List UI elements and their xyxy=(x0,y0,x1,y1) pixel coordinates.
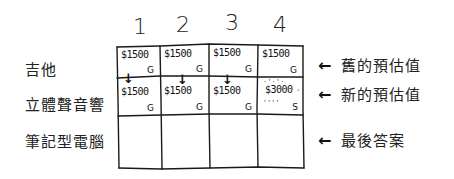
cell-item: G xyxy=(147,65,154,75)
cell-guitar-2: $1500 G ↓ xyxy=(161,46,209,76)
sparkle-icon: ' ' ' ' xyxy=(264,99,278,107)
arrow-down-icon: ↓ xyxy=(123,71,134,86)
cell-price: $1500 xyxy=(121,86,149,97)
arrow-down-icon: ↓ xyxy=(222,72,233,87)
cell-price: $1500 xyxy=(164,48,192,59)
arrow-down-icon: ↓ xyxy=(177,72,188,87)
cell-laptop-2 xyxy=(162,115,210,168)
cell-price: $1500 xyxy=(213,47,241,58)
cell-stereo-3: $1500 G xyxy=(210,76,258,114)
cell-price: $1500 xyxy=(262,48,290,59)
cell-item: S xyxy=(292,102,298,112)
arrow-left-icon: ← xyxy=(318,85,331,104)
cell-item: G xyxy=(245,102,252,112)
cell-item: G xyxy=(196,64,203,74)
arrow-left-icon: ← xyxy=(318,56,331,75)
cell-laptop-3 xyxy=(210,114,258,167)
cell-item: G xyxy=(147,103,154,113)
sparkle-icon: - xyxy=(297,86,300,94)
cell-item: G xyxy=(196,102,203,112)
cell-price: $3000 xyxy=(265,84,293,95)
cell-guitar-1: $1500 G ↓ xyxy=(118,47,160,77)
annotation-new-estimate: ← 新的預估值 xyxy=(318,83,421,104)
cell-item: G xyxy=(290,65,297,75)
cell-laptop-4 xyxy=(258,114,303,167)
annotation-final-answer: ← 最後答案 xyxy=(318,129,405,150)
annotation-label: 新的預估值 xyxy=(341,86,421,104)
cell-guitar-4: $1500 G xyxy=(259,46,303,77)
arrow-left-icon: ← xyxy=(318,131,331,150)
cell-guitar-3: $1500 G ↓ xyxy=(210,45,258,76)
annotation-label: 舊的預估值 xyxy=(341,57,421,75)
cell-laptop-1 xyxy=(119,116,161,168)
cell-item: G xyxy=(245,64,252,74)
annotation-label: 最後答案 xyxy=(341,132,405,150)
annotation-old-estimate: ← 舊的預估值 xyxy=(318,54,421,75)
cell-stereo-4-highlighted: · ' · ' · $3000 - ' ' ' ' S xyxy=(259,77,303,114)
cell-price: $1500 xyxy=(121,49,149,60)
